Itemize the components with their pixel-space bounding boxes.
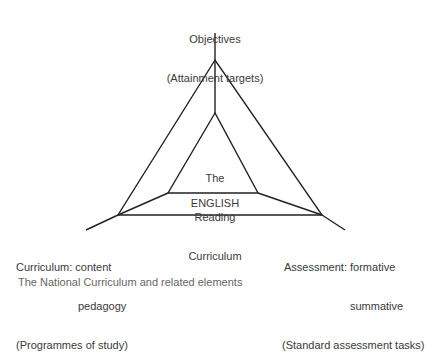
ext-right	[322, 215, 345, 230]
attainment-targets-text: (Attainment targets)	[150, 72, 280, 85]
inner-label: The Reading Curriculum	[185, 146, 245, 276]
assessment-text: Assessment: formative	[282, 261, 424, 274]
left-label: Curriculum: content pedagogy (Programmes…	[16, 235, 128, 355]
inner-line-1: The	[185, 172, 245, 185]
standard-tasks-text: (Standard assessment tasks)	[282, 339, 424, 352]
curriculum-text: Curriculum: content	[16, 261, 128, 274]
programmes-text: (Programmes of study)	[16, 339, 128, 352]
summative-text: summative	[282, 300, 424, 313]
english-band-label: ENGLISH	[175, 197, 255, 210]
right-label: Assessment: formative summative (Standar…	[282, 235, 424, 355]
inner-line-3: Curriculum	[185, 250, 245, 263]
link-right	[258, 193, 322, 215]
ext-left	[86, 215, 118, 230]
inner-line-2: Reading	[185, 211, 245, 224]
top-label: Objectives (Attainment targets)	[150, 7, 280, 98]
pedagogy-text: pedagogy	[16, 300, 128, 313]
caption: The National Curriculum and related elem…	[18, 276, 242, 289]
objectives-text: Objectives	[150, 33, 280, 46]
